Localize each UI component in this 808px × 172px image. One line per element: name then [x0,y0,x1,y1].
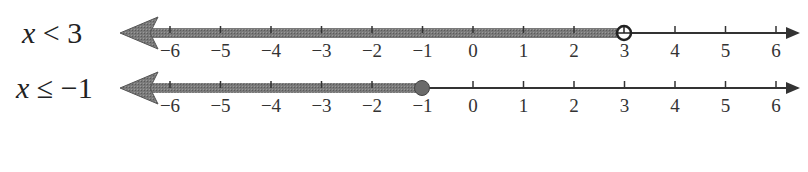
tick-label: 6 [771,40,781,61]
right-arrow-icon [786,82,800,94]
number-line-2: x ≤ −1 −6−5−4−3−2−10123456 [15,71,800,116]
tick-label: 4 [670,40,680,61]
tick-label: −6 [160,40,180,61]
tick-label: −2 [362,40,382,61]
tick-label: −1 [412,95,432,116]
number-lines-diagram: x < 3 −6−5−4−3−2−10123456 x ≤ −1 −6−5−4−… [0,0,808,172]
tick-label: 4 [670,95,680,116]
inequality-label-1: x < 3 [21,16,82,49]
closed-circle-endpoint [415,81,430,96]
tick-label: −4 [261,40,282,61]
tick-label: 0 [468,95,478,116]
tick-label: 2 [569,95,579,116]
tick-label: −1 [412,40,432,61]
shaded-ray-2 [150,83,420,93]
tick-label: −6 [160,95,180,116]
inequality-label-2: x ≤ −1 [15,71,93,104]
tick-label: 1 [519,95,529,116]
tick-label: 3 [620,40,630,61]
tick-label: 0 [468,40,478,61]
tick-label: −4 [261,95,282,116]
tick-label: −5 [210,95,230,116]
tick-label: 6 [771,95,781,116]
tick-label: −2 [362,95,382,116]
tick-label: 2 [569,40,579,61]
tick-label: 5 [721,40,731,61]
tick-label: 3 [620,95,630,116]
tick-label: −5 [210,40,230,61]
tick-label: 5 [721,95,731,116]
tick-label: −3 [311,95,331,116]
right-arrow-icon [786,27,800,39]
number-line-1: x < 3 −6−5−4−3−2−10123456 [21,16,800,61]
tick-label: −3 [311,40,331,61]
tick-label: 1 [519,40,529,61]
